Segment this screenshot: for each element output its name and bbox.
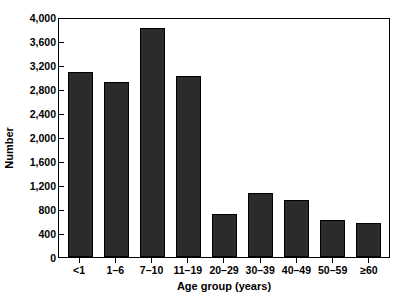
x-axis-title: Age group (years)	[58, 278, 390, 294]
bar-slot	[206, 19, 242, 257]
y-axis-tick-label: 3,200	[16, 59, 56, 73]
bar	[284, 200, 309, 257]
bar-slot	[314, 19, 350, 257]
y-axis-tick-mark	[59, 186, 64, 187]
x-axis-tick-label: 50–59	[315, 262, 351, 278]
y-axis-tick-label: 800	[16, 203, 56, 217]
bar	[356, 223, 381, 257]
bar-slot	[134, 19, 170, 257]
bar-slot	[242, 19, 278, 257]
x-axis-tick-label: 7–10	[133, 262, 169, 278]
bar	[140, 28, 165, 257]
x-axis-tick-labels: <11–67–1011–1920–2930–3940–4950–59≥60	[58, 262, 390, 278]
bar-slot	[278, 19, 314, 257]
y-axis-tick-label: 1,600	[16, 155, 56, 169]
bar-series	[59, 19, 389, 257]
bar	[176, 76, 201, 257]
bar	[104, 82, 129, 257]
y-axis-tick-label: 400	[16, 227, 56, 241]
y-axis-tick-label: 4,000	[16, 11, 56, 25]
y-axis-tick-mark	[59, 138, 64, 139]
x-axis-tick-label: <1	[61, 262, 97, 278]
plot-area	[58, 18, 390, 258]
x-axis-tick-label: 1–6	[97, 262, 133, 278]
y-axis-tick-label: 2,800	[16, 83, 56, 97]
bar-slot	[350, 19, 386, 257]
y-axis-tick-mark	[59, 210, 64, 211]
y-axis-tick-label: 0	[16, 251, 56, 265]
y-axis-tick-label: 1,200	[16, 179, 56, 193]
bar-slot	[62, 19, 98, 257]
bar	[248, 193, 273, 257]
x-axis-tick-label: ≥60	[351, 262, 387, 278]
x-axis-tick-label: 40–49	[278, 262, 314, 278]
bar-slot	[98, 19, 134, 257]
y-axis-tick-mark	[59, 90, 64, 91]
bar-slot	[170, 19, 206, 257]
y-axis-tick-mark	[59, 42, 64, 43]
y-axis-tick-label: 3,600	[16, 35, 56, 49]
bar-chart-figure: Number 04008001,2001,6002,0002,4002,8003…	[0, 0, 408, 296]
bar	[320, 220, 345, 257]
y-axis-tick-label: 2,400	[16, 107, 56, 121]
y-axis-tick-label: 2,000	[16, 131, 56, 145]
x-axis-tick-label: 30–39	[242, 262, 278, 278]
y-axis-tick-mark	[59, 66, 64, 67]
bar	[212, 214, 237, 257]
y-axis-tick-mark	[59, 234, 64, 235]
y-axis-tick-mark	[59, 162, 64, 163]
x-axis-tick-label: 20–29	[206, 262, 242, 278]
y-axis-tick-labels: 04008001,2001,6002,0002,4002,8003,2003,6…	[16, 18, 56, 258]
y-axis-tick-mark	[59, 114, 64, 115]
bar	[68, 72, 93, 257]
x-axis-tick-label: 11–19	[170, 262, 206, 278]
